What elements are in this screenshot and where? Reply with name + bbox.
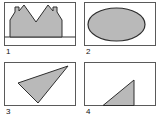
right-triangle-shape [84, 62, 156, 106]
panel-3: 3 [4, 62, 76, 106]
panel-4: 4 [84, 62, 156, 106]
ellipse-shape [84, 2, 156, 46]
panel-1: 1 [4, 2, 76, 46]
scalene-triangle-shape [4, 62, 76, 106]
castellated-double-peak-shape [4, 2, 76, 46]
panel-3-label: 3 [6, 107, 10, 116]
panel-2: 2 [84, 2, 156, 46]
shapes-figure: 1 2 3 4 [0, 0, 158, 120]
panel-1-label: 1 [6, 47, 10, 56]
panel-4-label: 4 [86, 107, 90, 116]
panel-2-label: 2 [86, 47, 90, 56]
